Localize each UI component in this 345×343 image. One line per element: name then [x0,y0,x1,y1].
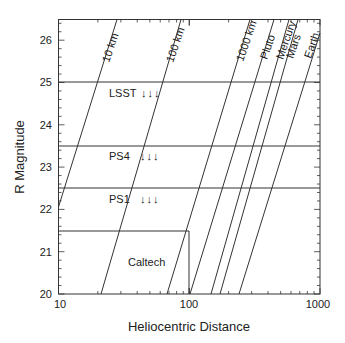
y-tick-labels: 20 21 22 23 24 25 26 [40,34,52,300]
y-axis-title: R Magnitude [12,120,27,194]
x-tick-100: 100 [180,298,198,310]
y-tick-24: 24 [40,119,52,131]
y-tick-21: 21 [40,246,52,258]
x-tick-1000: 1000 [306,298,330,310]
survey-labels: LSST PS4 PS1 ↓↓↓ ↓↓↓ ↓↓↓ Caltech [109,87,165,268]
y-tick-20: 20 [40,288,52,300]
line-earth [239,33,320,294]
x-tick-10: 10 [54,298,66,310]
lsst-arrows-icon: ↓↓↓ [141,87,161,99]
label-100km: 100 km [164,26,187,64]
ps4-arrows-icon: ↓↓↓ [140,150,160,162]
label-ps4: PS4 [109,150,130,162]
y-tick-23: 23 [40,161,52,173]
label-1000km: 1000 km [234,19,259,63]
label-ps1: PS1 [109,193,130,205]
chart: 20 21 22 23 24 25 26 10 100 1000 Helioce… [0,0,345,343]
label-caltech: Caltech [128,256,165,268]
x-tick-labels: 10 100 1000 [54,298,330,310]
x-axis-title: Heliocentric Distance [128,319,250,334]
y-tick-22: 22 [40,203,52,215]
line-labels: 10 km 100 km 1000 km Pluto Mercury Mars … [100,19,322,64]
label-lsst: LSST [109,87,137,99]
label-10km: 10 km [100,31,121,63]
line-mercury [211,20,289,295]
ps1-arrows-icon: ↓↓↓ [140,193,160,205]
label-earth: Earth [302,31,322,60]
y-tick-25: 25 [40,76,52,88]
y-tick-26: 26 [40,34,52,46]
